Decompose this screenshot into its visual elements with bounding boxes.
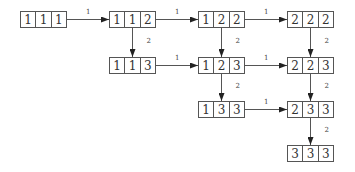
state-cell: 1 (110, 58, 125, 73)
state-node-113: 113 (109, 57, 156, 74)
state-cell: 3 (303, 146, 318, 161)
state-cell: 2 (288, 12, 303, 27)
transition-label: 2 (325, 82, 329, 90)
state-node-123: 123 (198, 57, 245, 74)
transition-label: 2 (236, 37, 240, 45)
state-cell: 3 (230, 102, 244, 117)
state-cell: 3 (288, 146, 303, 161)
state-node-233: 233 (287, 101, 334, 118)
state-cell: 3 (303, 102, 318, 117)
transition-label: 2 (325, 37, 329, 45)
state-cell: 2 (303, 58, 318, 73)
state-node-112: 112 (109, 11, 156, 28)
transition-label: 1 (264, 54, 268, 62)
state-cell: 1 (199, 102, 214, 117)
transition-label: 1 (264, 8, 268, 16)
transition-label: 1 (86, 8, 90, 16)
state-cell: 2 (319, 12, 333, 27)
state-cell: 2 (303, 12, 318, 27)
state-cell: 2 (214, 12, 229, 27)
state-cell: 2 (141, 12, 155, 27)
state-cell: 2 (230, 12, 244, 27)
state-cell: 3 (319, 102, 333, 117)
state-node-111: 111 (20, 11, 67, 28)
state-cell: 2 (214, 58, 229, 73)
state-transition-diagram: 1111121222221131232231332333331111112222… (0, 0, 355, 172)
state-cell: 2 (288, 58, 303, 73)
transition-label: 1 (264, 98, 268, 106)
state-cell: 3 (141, 58, 155, 73)
state-cell: 1 (110, 12, 125, 27)
state-cell: 1 (125, 58, 140, 73)
state-node-222: 222 (287, 11, 334, 28)
state-cell: 3 (214, 102, 229, 117)
state-node-333: 333 (287, 145, 334, 162)
state-cell: 3 (230, 58, 244, 73)
state-cell: 1 (36, 12, 51, 27)
state-cell: 3 (319, 146, 333, 161)
transition-label: 2 (325, 126, 329, 134)
transition-label: 1 (175, 8, 179, 16)
state-node-223: 223 (287, 57, 334, 74)
state-node-122: 122 (198, 11, 245, 28)
state-cell: 1 (199, 58, 214, 73)
state-node-133: 133 (198, 101, 245, 118)
state-cell: 1 (21, 12, 36, 27)
transition-label: 2 (236, 82, 240, 90)
transition-label: 1 (175, 54, 179, 62)
transition-label: 2 (147, 37, 151, 45)
state-cell: 2 (288, 102, 303, 117)
state-cell: 1 (125, 12, 140, 27)
state-cell: 3 (319, 58, 333, 73)
state-cell: 1 (199, 12, 214, 27)
state-cell: 1 (52, 12, 66, 27)
